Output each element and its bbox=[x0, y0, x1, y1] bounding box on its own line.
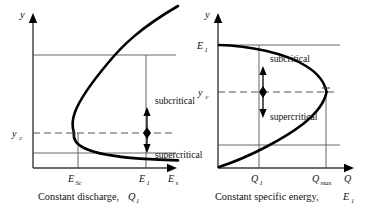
left-caption-text: Constant discharge, bbox=[38, 191, 119, 202]
right-caption-symbol-subscript: 1 bbox=[351, 197, 354, 204]
left-panel: y y c E Sc E 1 E s subcritical supercrit… bbox=[11, 6, 203, 204]
right-subcritical-label: subcritical bbox=[270, 53, 310, 64]
right-yc-tick-label: y bbox=[197, 87, 203, 98]
right-flow-regime-arrow-up-head bbox=[259, 66, 266, 75]
left-curve-subcritical-branch bbox=[73, 6, 178, 133]
right-y-axis-label: y bbox=[204, 9, 210, 20]
left-caption-symbol-subscript: 1 bbox=[136, 197, 139, 204]
left-flow-regime-arrow-down-head bbox=[143, 144, 150, 153]
right-flow-regime-arrow-center-diamond bbox=[259, 86, 267, 98]
right-x-axis-label: Q bbox=[344, 173, 352, 184]
left-yc-tick-subscript: c bbox=[20, 134, 23, 141]
left-flow-regime-arrow-center-diamond bbox=[143, 127, 151, 139]
right-e1-tick-subscript: 1 bbox=[205, 46, 208, 53]
left-yc-tick-label: y bbox=[11, 128, 17, 139]
right-qmax-tick-label: Q bbox=[312, 173, 320, 184]
right-curve-supercritical-branch bbox=[219, 92, 327, 167]
left-esc-tick-subscript: Sc bbox=[76, 179, 82, 186]
left-x-axis-label: E bbox=[167, 173, 174, 184]
left-supercritical-label: supercritical bbox=[155, 149, 203, 160]
right-caption-text: Constant specific energy, bbox=[215, 191, 319, 202]
left-subcritical-label: subcritical bbox=[155, 95, 195, 106]
right-qmax-tick-subscript: max bbox=[321, 179, 332, 186]
two-panel-diagram: y y c E Sc E 1 E s subcritical supercrit… bbox=[0, 0, 372, 208]
left-esc-tick-label: E bbox=[67, 173, 74, 184]
right-yc-tick-subscript: c bbox=[206, 93, 209, 100]
right-panel: y E 1 y c Q 1 Q max Q subcritical superc… bbox=[196, 9, 354, 204]
right-q1-tick-label: Q bbox=[251, 173, 259, 184]
right-caption-symbol: E bbox=[342, 191, 350, 202]
left-x-axis-label-subscript: s bbox=[176, 179, 179, 186]
left-y-axis-label: y bbox=[19, 9, 25, 20]
left-e1-tick-label: E bbox=[138, 173, 145, 184]
left-flow-regime-arrow-up-head bbox=[143, 107, 150, 116]
right-q1-tick-subscript: 1 bbox=[260, 179, 263, 186]
figure-container: y y c E Sc E 1 E s subcritical supercrit… bbox=[0, 0, 372, 208]
left-y-axis-arrowhead bbox=[29, 13, 37, 23]
left-x-axis-arrowhead bbox=[167, 164, 177, 172]
right-x-axis-arrowhead bbox=[344, 164, 354, 172]
left-caption-symbol: Q bbox=[128, 191, 136, 202]
left-e1-tick-subscript: 1 bbox=[147, 179, 150, 186]
right-supercritical-label: supercritical bbox=[270, 111, 318, 122]
right-flow-regime-arrow-down-head bbox=[259, 109, 266, 118]
right-y-axis-arrowhead bbox=[214, 13, 222, 23]
right-e1-tick-label: E bbox=[196, 40, 203, 51]
